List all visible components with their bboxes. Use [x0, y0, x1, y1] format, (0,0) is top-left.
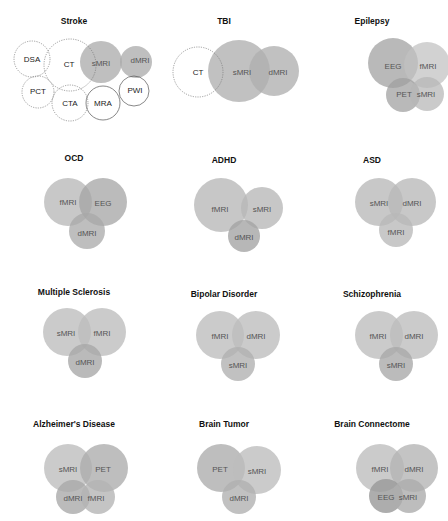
label-dmri: dMRI	[63, 494, 82, 503]
panel-tbi: TBI CT sMRI dMRI	[150, 0, 298, 130]
label-dmri: dMRI	[77, 229, 96, 238]
label-smri: sMRI	[92, 59, 111, 68]
label-pet: PET	[95, 465, 111, 474]
label-pet: PET	[396, 90, 412, 99]
panel-epilepsy: Epilepsy EEG fMRI PET sMRI	[298, 0, 446, 130]
venn-diagram: fMRI sMRI dMRI	[150, 130, 300, 260]
label-smri: sMRI	[233, 68, 252, 77]
label-fmri: fMRI	[88, 494, 105, 503]
label-smri: sMRI	[387, 361, 406, 370]
label-smri: sMRI	[370, 199, 389, 208]
venn-diagram: fMRI EEG dMRI	[0, 130, 150, 260]
label-smri: sMRI	[253, 205, 272, 214]
label-fmri: fMRI	[372, 465, 389, 474]
label-cta: CTA	[62, 99, 78, 108]
panel-asd: ASD sMRI dMRI fMRI	[298, 130, 446, 260]
panel-brain-connectome: Brain Connectome fMRI dMRI EEG sMRI	[298, 390, 446, 520]
venn-diagram: sMRI dMRI fMRI	[298, 130, 448, 260]
label-pwi: PWI	[127, 86, 142, 95]
venn-diagram: fMRI dMRI EEG sMRI	[298, 390, 448, 521]
panel-bipolar-disorder: Bipolar Disorder fMRI dMRI sMRI	[150, 260, 298, 390]
label-eeg: EEG	[95, 199, 112, 208]
label-dmri: dMRI	[229, 494, 248, 503]
panel-schizophrenia: Schizophrenia fMRI dMRI sMRI	[298, 260, 446, 390]
label-smri: sMRI	[417, 90, 436, 99]
label-ct: CT	[64, 60, 75, 69]
venn-diagram: DSA CT sMRI dMRI PCT CTA MRA PWI	[0, 0, 150, 130]
panel-multiple-sclerosis: Multiple Sclerosis sMRI fMRI dMRI	[0, 260, 148, 390]
venn-diagram: sMRI fMRI dMRI	[0, 260, 150, 390]
label-smri: sMRI	[57, 329, 76, 338]
label-fmri: fMRI	[212, 332, 229, 341]
venn-diagram: EEG fMRI PET sMRI	[298, 0, 448, 130]
label-dmri: dMRI	[234, 233, 253, 242]
label-dmri: dMRI	[130, 56, 149, 65]
venn-diagram: CT sMRI dMRI	[150, 0, 300, 130]
label-smri: sMRI	[229, 361, 248, 370]
label-dmri: dMRI	[75, 358, 94, 367]
label-pct: PCT	[30, 87, 46, 96]
venn-diagram: fMRI dMRI sMRI	[150, 260, 300, 390]
label-smri: sMRI	[59, 465, 78, 474]
label-fmri: fMRI	[60, 198, 77, 207]
label-ct: CT	[193, 68, 204, 77]
label-fmri: fMRI	[370, 332, 387, 341]
label-dmri: dMRI	[402, 199, 421, 208]
panel-alzheimers-disease: Alzheimer's Disease sMRI PET dMRI fMRI	[0, 390, 148, 520]
label-fmri: fMRI	[420, 62, 437, 71]
label-smri: sMRI	[399, 493, 418, 502]
label-eeg: EEG	[385, 62, 402, 71]
label-mra: MRA	[94, 99, 112, 108]
panel-stroke: Stroke DSA CT sMRI dMRI PCT CTA MRA PWI	[0, 0, 148, 130]
label-fmri: fMRI	[212, 205, 229, 214]
venn-diagram: PET sMRI dMRI	[150, 390, 300, 521]
panel-brain-tumor: Brain Tumor PET sMRI dMRI	[150, 390, 298, 520]
label-dmri: dMRI	[404, 465, 423, 474]
venn-diagram: sMRI PET dMRI fMRI	[0, 390, 150, 521]
label-pet: PET	[212, 465, 228, 474]
panel-adhd: ADHD fMRI sMRI dMRI	[150, 130, 298, 260]
panel-ocd: OCD fMRI EEG dMRI	[0, 130, 148, 260]
label-fmri: fMRI	[388, 228, 405, 237]
label-dmri: dMRI	[246, 332, 265, 341]
venn-diagram: fMRI dMRI sMRI	[298, 260, 448, 390]
label-dmri: dMRI	[268, 68, 287, 77]
label-fmri: fMRI	[94, 329, 111, 338]
label-smri: sMRI	[248, 467, 267, 476]
label-eeg: EEG	[378, 493, 395, 502]
label-dmri: dMRI	[404, 332, 423, 341]
label-dsa: DSA	[24, 55, 41, 64]
